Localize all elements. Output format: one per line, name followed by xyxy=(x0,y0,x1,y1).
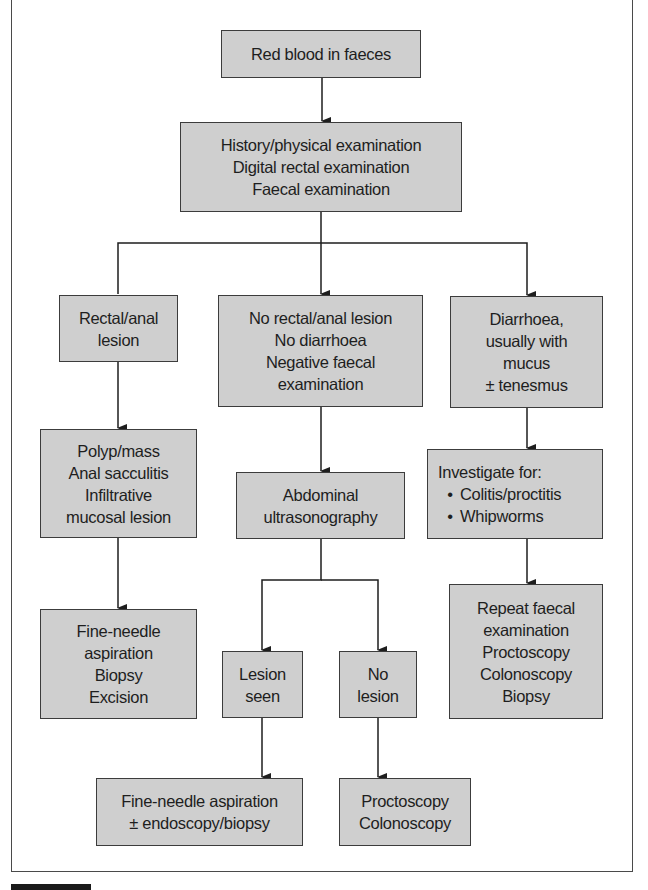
node-text: Diarrhoea, xyxy=(489,308,563,330)
node-text: Excision xyxy=(89,686,148,708)
node-text: examination xyxy=(483,619,569,641)
bullet-item: Colitis/proctitis xyxy=(438,483,561,505)
node-text: Fine-needle xyxy=(77,620,161,642)
node-text: seen xyxy=(245,685,280,707)
node-text: ± endoscopy/biopsy xyxy=(129,812,269,834)
node-text: mucosal lesion xyxy=(66,506,171,528)
node-text: lesion xyxy=(357,685,398,707)
node-text: No rectal/anal lesion xyxy=(249,307,392,329)
node-text: Red blood in faeces xyxy=(251,43,391,65)
node-proctoscopy-colonoscopy: Proctoscopy Colonoscopy xyxy=(339,778,471,846)
bullet-item: Whipworms xyxy=(438,505,543,527)
node-text: mucus xyxy=(503,352,550,374)
node-text: Fine-needle aspiration xyxy=(121,790,278,812)
node-text: Digital rectal examination xyxy=(233,156,410,178)
node-heading: Investigate for: xyxy=(438,461,541,483)
node-red-blood-in-faeces: Red blood in faeces xyxy=(221,30,421,78)
node-lesion-seen: Lesion seen xyxy=(222,651,303,718)
node-text: usually with xyxy=(486,330,568,352)
node-no-lesion: No lesion xyxy=(339,651,417,718)
node-text: Colonoscopy xyxy=(480,663,572,685)
node-text: Polyp/mass xyxy=(77,440,159,462)
node-text: Anal sacculitis xyxy=(68,462,168,484)
node-no-lesion-no-diarrhoea: No rectal/anal lesion No diarrhoea Negat… xyxy=(218,295,423,407)
node-initial-workup: History/physical examination Digital rec… xyxy=(180,122,462,212)
node-text: Colonoscopy xyxy=(359,812,451,834)
node-abdominal-ultrasonography: Abdominal ultrasonography xyxy=(236,472,405,539)
node-text: examination xyxy=(278,373,364,395)
node-fna-biopsy-excision: Fine-needle aspiration Biopsy Excision xyxy=(40,609,197,719)
node-text: Negative faecal xyxy=(266,351,375,373)
node-text: Repeat faecal xyxy=(477,597,575,619)
node-text: Biopsy xyxy=(502,685,550,707)
node-polyp-mass: Polyp/mass Anal sacculitis Infiltrative … xyxy=(40,429,197,538)
node-text: No diarrhoea xyxy=(275,329,367,351)
node-text: No xyxy=(368,663,389,685)
node-text: Rectal/anal xyxy=(79,307,158,329)
node-text: aspiration xyxy=(84,642,153,664)
node-text: Proctoscopy xyxy=(361,790,449,812)
node-text: ± tenesmus xyxy=(485,374,567,396)
node-text: Faecal examination xyxy=(252,178,390,200)
node-text: lesion xyxy=(98,329,139,351)
node-text: History/physical examination xyxy=(221,134,422,156)
node-text: Infiltrative xyxy=(85,484,152,506)
node-repeat-workup: Repeat faecal examination Proctoscopy Co… xyxy=(449,584,603,719)
node-rectal-anal-lesion: Rectal/anal lesion xyxy=(59,295,178,362)
node-investigate-for: Investigate for: Colitis/proctitis Whipw… xyxy=(427,449,603,539)
node-text: Biopsy xyxy=(95,664,143,686)
node-text: Lesion xyxy=(239,663,286,685)
node-text: Proctoscopy xyxy=(482,641,570,663)
node-text: Abdominal xyxy=(283,484,358,506)
node-fna-endoscopy: Fine-needle aspiration ± endoscopy/biops… xyxy=(96,778,303,846)
node-text: ultrasonography xyxy=(264,506,378,528)
node-diarrhoea: Diarrhoea, usually with mucus ± tenesmus xyxy=(450,296,603,408)
